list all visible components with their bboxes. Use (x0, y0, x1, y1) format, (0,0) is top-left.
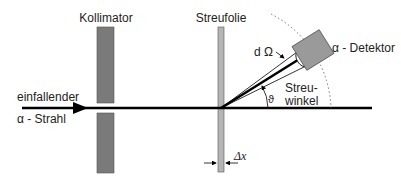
scattering-foil (218, 27, 224, 172)
incident-label-line2: α - Strahl (17, 112, 66, 126)
scatter-angle-label-line1: Streu- (285, 81, 318, 95)
collimator-lower-block (97, 113, 114, 173)
incident-label-line1: einfallender (17, 90, 79, 104)
detector-label: α - Detektor (332, 41, 395, 55)
collimator-label: Kollimator (79, 11, 132, 25)
foil-label: Streufolie (196, 11, 247, 25)
solid-angle-label: d Ω (254, 45, 273, 59)
scattering-diagram: Kollimator Streufolie einfallender α - S… (0, 0, 401, 183)
collimator-upper-block (97, 27, 114, 103)
scatter-angle-label-line2: winkel (284, 94, 318, 108)
scatter-angle-symbol: ϑ (268, 93, 274, 105)
solid-angle-pointer (276, 52, 284, 58)
collimator (97, 27, 114, 173)
foil-thickness-label: Δx (233, 149, 247, 163)
